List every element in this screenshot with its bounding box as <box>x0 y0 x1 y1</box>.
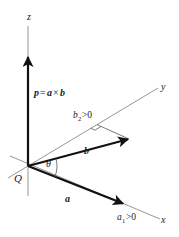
cross-product-label: p = a × b <box>33 87 65 98</box>
a1-component-label: a 1 >0 <box>117 212 136 224</box>
b2-inequality: >0 <box>82 110 92 120</box>
z-axis-label: z <box>26 11 31 22</box>
projection-line <box>97 125 129 139</box>
vector-b <box>28 139 128 166</box>
vector-a <box>28 166 123 204</box>
vector-a-label: a <box>65 193 70 204</box>
y-axis-label: y <box>160 81 166 92</box>
p-label: p <box>33 87 39 98</box>
theta-arc <box>55 159 57 177</box>
b2-component-label: b 2 >0 <box>73 110 92 122</box>
cross-product-diagram: z y x Q θ a b p = a × b b 2 >0 a 1 >0 <box>0 0 179 237</box>
a1-subscript: 1 <box>122 217 125 224</box>
b-label: b <box>60 87 65 98</box>
origin-label: Q <box>14 172 22 184</box>
a-label: a <box>47 87 52 98</box>
times-sign: × <box>53 87 59 98</box>
b2-subscript: 2 <box>78 115 81 122</box>
equals-sign: = <box>40 87 46 98</box>
a1-inequality: >0 <box>126 212 136 222</box>
theta-label: θ <box>46 158 51 169</box>
x-axis-label: x <box>160 214 166 225</box>
vector-b-label: b <box>84 145 89 156</box>
